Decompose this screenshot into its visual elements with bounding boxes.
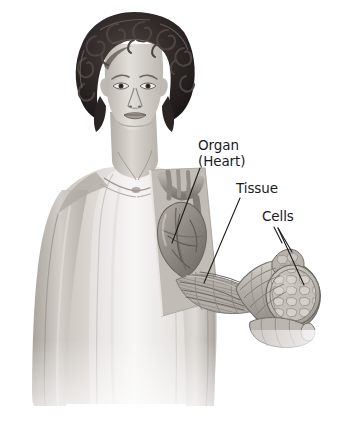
suprasternal-notch — [132, 187, 141, 193]
eye-left — [113, 83, 129, 89]
cross-section-highlight — [276, 275, 294, 295]
label-tissue: Tissue — [236, 181, 278, 197]
head-group — [76, 12, 195, 132]
label-cells: Cells — [262, 209, 294, 225]
brachiocephalic-vessel — [168, 172, 170, 198]
label-organ-line2: (Heart) — [198, 154, 245, 170]
label-organ: Organ (Heart) — [198, 138, 245, 169]
subclavian-vessel — [188, 172, 189, 196]
label-organ-line1: Organ — [198, 137, 239, 153]
eye-right — [140, 83, 156, 89]
anatomy-illustration — [0, 0, 347, 441]
anatomy-figure: Organ (Heart) Tissue Cells — [0, 0, 347, 441]
nostril-right — [138, 105, 141, 107]
carotid-vessel — [178, 170, 179, 196]
fade-right-lower — [215, 330, 347, 441]
nostril-left — [129, 105, 132, 107]
fade-left — [0, 150, 34, 441]
